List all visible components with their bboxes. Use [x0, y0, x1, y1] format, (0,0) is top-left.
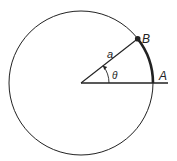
point-b-dot [135, 36, 141, 42]
radius-line-a [81, 39, 138, 83]
label-point-b: B [142, 32, 150, 46]
label-point-a: A [158, 69, 167, 83]
label-angle-theta: θ [112, 70, 118, 81]
circle-arc-diagram: a θ B A [0, 0, 177, 161]
label-radius-a: a [107, 48, 113, 60]
